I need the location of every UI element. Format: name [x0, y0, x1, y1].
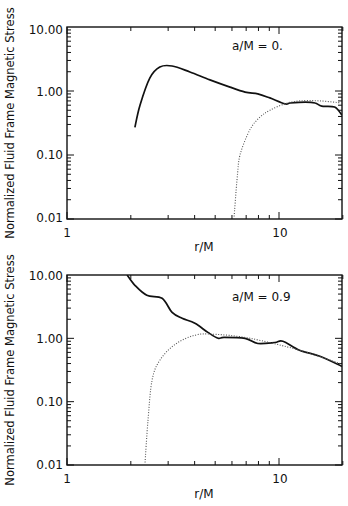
xtick-label-10: 10: [272, 472, 287, 486]
xtick-label-1: 1: [63, 226, 71, 240]
y-axis-label: Normalized Fluid Frame Magnetic Stress: [3, 254, 17, 485]
ytick-label-1: 1.00: [36, 332, 63, 346]
y-axis-label: Normalized Fluid Frame Magnetic Stress: [3, 7, 17, 238]
annotation-spin: a/M = 0.9: [232, 290, 291, 304]
solid-curve: [127, 275, 342, 366]
ytick-label-10: 10.00: [29, 269, 63, 283]
ytick-label-0.1: 0.10: [36, 395, 63, 409]
annotation-spin: a/M = 0.: [232, 39, 283, 53]
plot-frame: [67, 27, 342, 219]
ytick-label-0.1: 0.10: [36, 148, 63, 162]
ytick-label-1: 1.00: [36, 85, 63, 99]
plot-frame: [67, 275, 342, 465]
panel-bottom: Normalized Fluid Frame Magnetic Stress 1…: [3, 254, 343, 501]
xtick-label-10: 10: [272, 226, 287, 240]
solid-curve: [135, 65, 342, 127]
ytick-label-0.01: 0.01: [36, 458, 63, 472]
ytick-label-10: 10.00: [29, 23, 63, 37]
xtick-label-1: 1: [63, 472, 71, 486]
x-axis-label: r/M: [194, 240, 213, 254]
figure-canvas: Normalized Fluid Frame Magnetic Stress 1…: [0, 0, 348, 506]
dotted-curve: [234, 101, 342, 219]
ytick-label-0.01: 0.01: [36, 211, 63, 225]
figure: Normalized Fluid Frame Magnetic Stress 1…: [0, 0, 348, 506]
x-axis-label: r/M: [194, 487, 213, 501]
panel-top: Normalized Fluid Frame Magnetic Stress 1…: [3, 7, 343, 254]
dotted-curve: [145, 334, 342, 465]
